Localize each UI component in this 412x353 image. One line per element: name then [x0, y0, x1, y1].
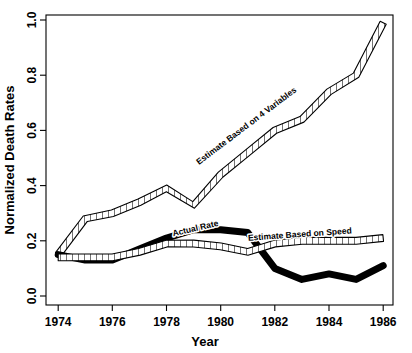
y-tick-label: 0.4 [25, 177, 39, 194]
chart-background [0, 0, 412, 353]
x-tick-label: 1978 [153, 315, 180, 329]
x-tick-label: 1980 [207, 315, 234, 329]
x-tick-label: 1982 [261, 315, 288, 329]
x-tick-label: 1976 [99, 315, 126, 329]
x-tick-label: 1986 [370, 315, 397, 329]
y-axis-title: Normalized Death Rates [2, 86, 17, 235]
y-tick-label: 0.8 [25, 67, 39, 84]
y-tick-label: 0.0 [25, 287, 39, 304]
y-tick-label: 0.2 [25, 232, 39, 249]
x-axis-title: Year [191, 334, 218, 349]
x-tick-label: 1974 [45, 315, 72, 329]
y-tick-label: 1.0 [25, 11, 39, 28]
chart-figure: 0.0 0.2 0.4 0.6 0.8 1.0 1974 1976 1978 1… [0, 0, 412, 353]
y-tick-label: 0.6 [25, 122, 39, 139]
chart-canvas: 0.0 0.2 0.4 0.6 0.8 1.0 1974 1976 1978 1… [0, 0, 412, 353]
x-tick-label: 1984 [316, 315, 343, 329]
